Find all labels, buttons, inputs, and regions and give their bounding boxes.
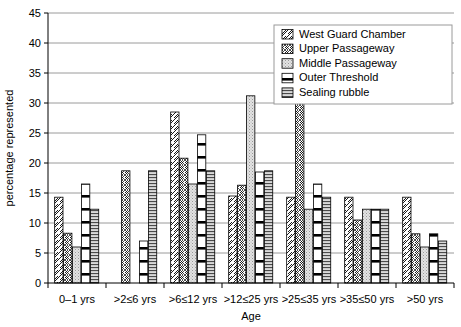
x-category-label: 0–1 yrs: [59, 293, 96, 305]
x-category-label: >35≤50 yrs: [340, 293, 395, 305]
y-tick-label: 20: [29, 157, 41, 169]
legend-label: Middle Passageway: [299, 57, 397, 69]
bar: [189, 184, 197, 283]
legend-swatch: [282, 59, 293, 68]
x-category-label: >50 yrs: [407, 293, 444, 305]
bar: [438, 241, 446, 283]
bar: [148, 171, 156, 283]
bar: [313, 184, 321, 283]
legend-swatch: [282, 44, 293, 54]
y-tick-label: 40: [29, 37, 41, 49]
legend-label: Upper Passageway: [299, 42, 395, 54]
bar: [171, 112, 179, 283]
legend-swatch: [282, 88, 293, 98]
bar: [255, 172, 263, 283]
x-category-label: >2≤6 yrs: [114, 293, 157, 305]
bar: [354, 220, 362, 283]
bar: [180, 158, 188, 283]
bar: [238, 185, 246, 283]
bar: [90, 209, 98, 283]
x-category-label: >6≤12 yrs: [169, 293, 218, 305]
legend: West Guard ChamberUpper PassagewayMiddle…: [274, 25, 452, 104]
y-tick-label: 5: [35, 247, 41, 259]
legend-label: West Guard Chamber: [299, 28, 406, 40]
bar: [421, 247, 429, 283]
x-axis-title: Age: [241, 310, 261, 322]
bar: [247, 96, 255, 283]
chart-container: 051015202530354045 0–1 yrs>2≤6 yrs>6≤12 …: [0, 0, 461, 327]
bar: [139, 241, 147, 283]
legend-label: Outer Threshold: [299, 71, 378, 83]
bar: [122, 171, 130, 283]
y-tick-label: 0: [35, 277, 41, 289]
bar: [264, 171, 272, 283]
bar: [197, 135, 205, 283]
legend-swatch: [282, 73, 293, 83]
y-tick-label: 15: [29, 187, 41, 199]
bar: [229, 196, 237, 283]
bar: [305, 209, 313, 283]
bar: [287, 197, 295, 283]
bar: [429, 234, 437, 283]
bar: [322, 197, 330, 283]
bar: [371, 209, 379, 283]
legend-swatch: [282, 30, 293, 40]
x-category-label: >12≤25 yrs: [224, 293, 279, 305]
y-tick-label: 45: [29, 7, 41, 19]
bar: [64, 233, 72, 283]
bar: [380, 209, 388, 283]
bar: [73, 247, 81, 283]
legend-label: Sealing rubble: [299, 86, 369, 98]
bar: [206, 171, 214, 283]
bar: [55, 197, 63, 283]
x-category-label: >25≤35 yrs: [282, 293, 337, 305]
bar: [412, 234, 420, 283]
bar: [345, 197, 353, 283]
y-tick-label: 10: [29, 217, 41, 229]
y-axis-title: percentage represented: [3, 90, 15, 207]
y-tick-label: 35: [29, 67, 41, 79]
bar: [81, 184, 89, 283]
x-axis-category-labels: 0–1 yrs>2≤6 yrs>6≤12 yrs>12≤25 yrs>25≤35…: [59, 293, 444, 305]
y-tick-label: 30: [29, 97, 41, 109]
bar-chart: 051015202530354045 0–1 yrs>2≤6 yrs>6≤12 …: [0, 0, 461, 327]
bar: [363, 209, 371, 283]
bar: [403, 197, 411, 283]
y-tick-label: 25: [29, 127, 41, 139]
